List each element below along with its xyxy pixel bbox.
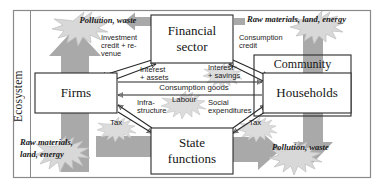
interest-savings-line2: + savings <box>208 72 258 80</box>
flow-label-tax-right: Tax <box>249 119 273 127</box>
state-functions-line2: functions <box>168 151 216 167</box>
flow-label-labour: Labour <box>172 96 212 104</box>
interest-assets-line2: + assets <box>140 74 188 82</box>
diagram-canvas: Ecosystem Financial sector Firms Communi… <box>0 0 379 189</box>
node-label-financial-sector[interactable]: Financial sector <box>151 15 233 63</box>
flow-label-investment-credit-revenue: Investment credit + re- venue <box>101 34 161 57</box>
consumption-goods-line1: Consumption goods <box>144 84 244 92</box>
flow-label-interest-savings: Interest + savings <box>208 64 258 80</box>
social-expenditures-line2: expenditures <box>208 107 264 115</box>
pollution-waste-bottom-right-text: Pollution, waste <box>272 142 329 152</box>
pollution-waste-top-left-text: Pollution, waste <box>80 15 137 25</box>
node-label-state-functions[interactable]: State functions <box>151 128 233 174</box>
eco-label-pollution-waste-top-left: Pollution, waste <box>62 16 154 25</box>
financial-sector-line1: Financial <box>168 23 216 39</box>
node-label-community[interactable]: Community <box>254 55 351 73</box>
firms-line1: Firms <box>61 85 91 101</box>
gray-bar-bottom-left <box>96 136 156 157</box>
households-line1: Households <box>276 85 337 101</box>
tax-right-line1: Tax <box>249 119 273 127</box>
flow-label-consumption-goods: Consumption goods <box>144 84 244 92</box>
flow-label-tax-left: Tax <box>110 119 134 127</box>
state-functions-line1: State <box>179 135 205 151</box>
node-label-households[interactable]: Households <box>263 73 351 113</box>
tax-left-line1: Tax <box>110 119 134 127</box>
raw-materials-top-right-text: Raw materials, land, energy <box>247 14 346 24</box>
financial-sector-line2: sector <box>176 39 207 55</box>
ecosystem-label: Ecosystem <box>12 22 30 122</box>
eco-label-raw-materials-bottom-left: Raw materials, land, energy <box>20 137 96 160</box>
infrastructure-line2: structure <box>137 107 179 115</box>
community-line1: Community <box>274 57 331 72</box>
eco-label-pollution-waste-bottom-right: Pollution, waste <box>272 143 364 152</box>
flow-label-interest-assets: Interest + assets <box>140 66 188 82</box>
ecosystem-label-text: Ecosystem <box>12 70 24 122</box>
eco-label-raw-materials-top-right: Raw materials, land, energy <box>247 15 377 24</box>
raw-materials-bottom-left-line2: land, energy <box>20 149 96 161</box>
raw-materials-bottom-left-line1: Raw materials, <box>20 137 96 149</box>
labour-line1: Labour <box>172 96 212 104</box>
flow-label-consumption-credit: Consumption credit <box>239 34 305 50</box>
flow-label-social-expenditures: Social expenditures <box>208 99 264 115</box>
consumption-credit-line2: credit <box>239 42 305 50</box>
node-label-firms[interactable]: Firms <box>35 73 117 113</box>
investment-credit-revenue-line3: venue <box>101 50 161 58</box>
gray-stub-top-right <box>234 18 245 25</box>
